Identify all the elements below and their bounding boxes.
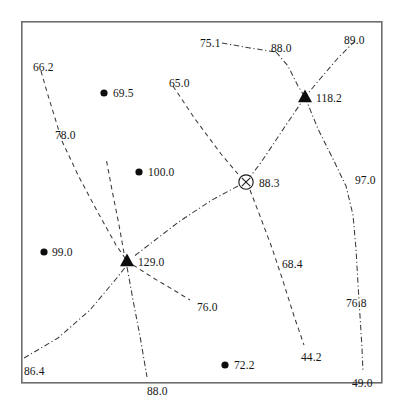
graph-edge (222, 43, 276, 52)
plot-frame (22, 22, 382, 383)
node-value-label: 72.2 (234, 360, 255, 372)
node-point-marker (221, 361, 228, 368)
edge-value-label: 66.2 (33, 62, 54, 74)
graph-edge (127, 267, 147, 377)
edge-value-label: 86.4 (24, 366, 45, 378)
node-point-marker (100, 89, 107, 96)
edge-value-label: 44.2 (301, 352, 322, 364)
graph-edge (305, 97, 363, 372)
graph-edge (133, 265, 190, 300)
node-layer (40, 89, 312, 368)
graph-edge (133, 186, 238, 257)
node-value-label: 88.3 (259, 178, 280, 190)
node-value-label: 69.5 (113, 88, 134, 100)
node-triangle-marker (120, 254, 134, 267)
node-point-marker (135, 168, 142, 175)
graph-edge (24, 265, 127, 358)
node-value-label: 129.0 (138, 257, 164, 269)
graph-edge (305, 41, 355, 97)
graph-edge (41, 71, 127, 261)
edge-value-label: 97.0 (355, 175, 376, 187)
edge-layer (24, 41, 363, 377)
edge-value-label: 88.0 (271, 43, 292, 55)
graph-edge (276, 52, 305, 97)
node-value-label: 100.0 (148, 167, 174, 179)
edge-value-label: 49.0 (352, 378, 373, 390)
edge-value-label: 78.0 (55, 130, 76, 142)
edge-value-label: 89.0 (344, 35, 365, 47)
edge-value-label: 68.4 (282, 259, 303, 271)
node-point-marker (40, 248, 47, 255)
graph-edge (106, 158, 124, 253)
figure-canvas: 69.5100.099.072.2118.2129.088.366.278.08… (0, 0, 400, 411)
network-diagram-svg (0, 0, 400, 411)
node-value-label: 118.2 (316, 93, 342, 105)
edge-value-label: 88.0 (147, 386, 168, 398)
edge-value-label: 76.0 (197, 302, 218, 314)
edge-value-label: 65.0 (169, 78, 190, 90)
graph-edge (250, 97, 305, 177)
node-value-label: 99.0 (52, 247, 73, 259)
edge-value-label: 75.1 (200, 38, 221, 50)
graph-edge (173, 86, 238, 174)
edge-value-label: 76.8 (346, 298, 367, 310)
